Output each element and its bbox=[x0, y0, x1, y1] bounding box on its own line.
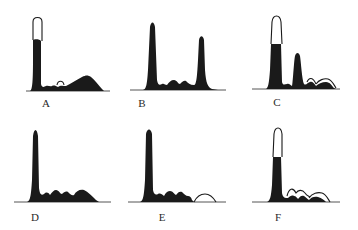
panel-f bbox=[252, 128, 340, 202]
outline-profile bbox=[57, 81, 64, 85]
outline-profile bbox=[194, 194, 216, 202]
panel-label-f: F bbox=[268, 211, 288, 223]
filled-profile bbox=[30, 39, 104, 91]
filled-profile bbox=[267, 157, 326, 202]
panel-b bbox=[130, 23, 226, 91]
panel-label-b: B bbox=[132, 97, 152, 109]
panel-e bbox=[128, 130, 226, 203]
panel-label-c: C bbox=[267, 96, 287, 108]
outline-profile bbox=[287, 189, 310, 197]
panel-a bbox=[26, 18, 110, 92]
profile-figure bbox=[0, 0, 358, 230]
filled-profile bbox=[266, 44, 336, 89]
filled-profile bbox=[140, 130, 194, 203]
panel-d bbox=[14, 130, 111, 202]
outline-profile bbox=[271, 16, 282, 44]
filled-profile bbox=[143, 23, 218, 91]
panel-label-a: A bbox=[36, 97, 56, 109]
panel-label-e: E bbox=[152, 211, 172, 223]
panel-label-d: D bbox=[25, 211, 45, 223]
outline-profile bbox=[33, 18, 42, 42]
filled-profile bbox=[27, 130, 99, 202]
outline-profile bbox=[273, 128, 282, 157]
panel-c bbox=[252, 16, 340, 89]
